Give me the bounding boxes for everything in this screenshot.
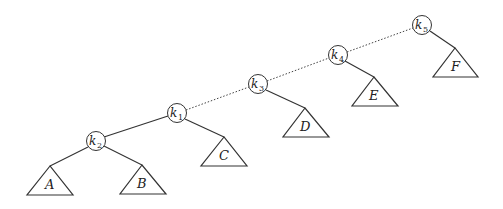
node-k3: k 3 xyxy=(249,75,268,94)
subtree-A: A xyxy=(27,166,73,195)
tree-diagram: A B C D E F k 2 k 1 k 3 k 4 k xyxy=(0,0,503,209)
subtree-F: F xyxy=(433,48,478,77)
svg-text:k: k xyxy=(89,134,96,148)
svg-text:C: C xyxy=(219,148,229,163)
svg-text:F: F xyxy=(450,59,461,74)
subtree-B: B xyxy=(120,165,166,194)
node-k4: k 4 xyxy=(329,46,348,65)
edge-k5-F xyxy=(430,31,455,48)
dotted-edge-k1-k3 xyxy=(186,87,249,110)
svg-text:4: 4 xyxy=(339,55,344,64)
edge-k4-E xyxy=(345,61,374,77)
svg-text:k: k xyxy=(251,77,258,91)
subtree-C: C xyxy=(201,137,247,166)
dotted-edge-k4-k5 xyxy=(347,28,413,52)
svg-text:k: k xyxy=(170,106,177,120)
edge-k1-C xyxy=(185,119,224,137)
edge-k2-A xyxy=(50,147,88,166)
subtree-D: D xyxy=(283,108,329,137)
edge-k2-B xyxy=(104,146,142,165)
edge-k2-k1 xyxy=(104,116,168,137)
svg-text:2: 2 xyxy=(97,141,102,150)
svg-text:D: D xyxy=(299,119,311,134)
subtree-E: E xyxy=(352,77,398,106)
node-k2: k 2 xyxy=(87,132,106,151)
node-k5: k 5 xyxy=(413,16,432,35)
edge-k3-D xyxy=(266,90,305,108)
svg-text:k: k xyxy=(331,48,338,62)
node-k1: k 1 xyxy=(168,104,187,123)
svg-text:5: 5 xyxy=(423,25,428,34)
svg-text:3: 3 xyxy=(259,84,264,93)
svg-text:1: 1 xyxy=(178,113,183,122)
svg-text:E: E xyxy=(368,88,379,103)
svg-text:A: A xyxy=(44,177,54,192)
svg-text:B: B xyxy=(136,176,147,191)
dotted-edge-k3-k4 xyxy=(267,58,329,81)
svg-text:k: k xyxy=(415,18,422,32)
